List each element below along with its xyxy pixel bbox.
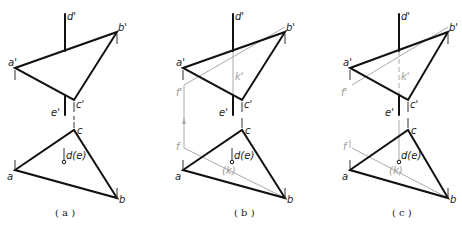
svg-text:k': k': [401, 71, 410, 82]
svg-text:b: b: [450, 194, 456, 205]
svg-text:a: a: [175, 171, 181, 182]
svg-text:e': e': [219, 107, 228, 118]
svg-text:(k): (k): [389, 165, 403, 176]
label-f-prime: f': [176, 87, 182, 98]
panel-c: d' b' a' k' f' c' e' c f d(e) (k) a b ( …: [341, 11, 458, 218]
svg-text:e': e': [385, 107, 394, 118]
svg-text:c: c: [411, 125, 417, 136]
svg-text:d': d': [401, 11, 410, 22]
svg-text:a: a: [342, 171, 348, 182]
label-c: c: [77, 125, 83, 136]
caption-c: ( c ): [392, 207, 412, 218]
svg-text:b': b': [286, 22, 295, 33]
svg-text:c: c: [245, 125, 251, 136]
svg-text:a': a': [176, 57, 185, 68]
caption-b: ( b ): [234, 207, 255, 218]
label-de: d(e): [66, 150, 86, 161]
arrow-up-icon: [182, 117, 186, 124]
panel-a: d' b' a' c' e' c d(e) a b ( a ): [7, 11, 127, 218]
label-a-prime: a': [8, 57, 17, 68]
svg-text:d(e): d(e): [401, 150, 421, 161]
label-e-prime: e': [51, 107, 60, 118]
label-k: (k): [222, 165, 236, 176]
label-b: b: [119, 194, 125, 205]
svg-text:b: b: [287, 194, 293, 205]
panel-b: d' b' a' k' f' c' e' c f d(e) (k) a b ( …: [175, 11, 295, 218]
svg-text:d(e): d(e): [234, 150, 254, 161]
svg-text:c': c': [244, 99, 252, 110]
label-a: a: [7, 171, 13, 182]
label-k-prime: k': [235, 71, 244, 82]
label-b-prime: b': [118, 22, 127, 33]
label-f: f: [176, 141, 181, 152]
label-d-prime: d': [67, 11, 76, 22]
svg-text:b': b': [449, 22, 458, 33]
label-c-prime: c': [76, 99, 84, 110]
svg-text:c': c': [410, 99, 418, 110]
orthographic-projection-figure: d' b' a' c' e' c d(e) a b ( a ) d' b' a'…: [0, 0, 462, 231]
svg-text:f': f': [341, 87, 347, 98]
svg-text:d': d': [235, 11, 244, 22]
svg-text:a': a': [343, 57, 352, 68]
caption-a: ( a ): [55, 207, 75, 218]
svg-text:f: f: [343, 141, 348, 152]
top-triangle: [15, 130, 117, 198]
